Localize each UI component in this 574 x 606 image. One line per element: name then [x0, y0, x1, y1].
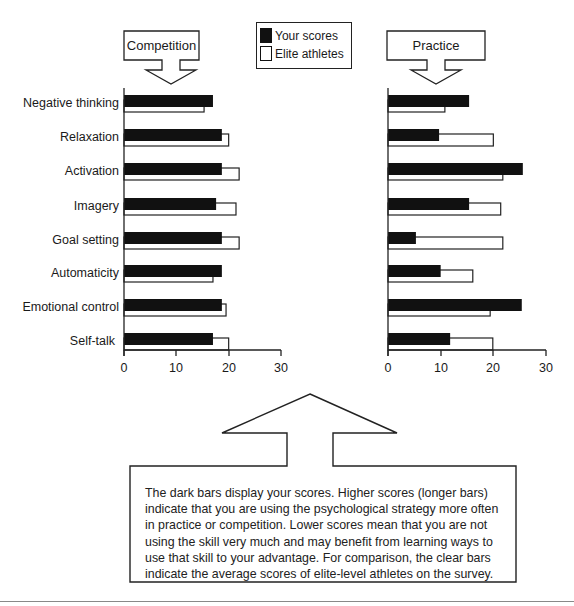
category-label: Imagery [74, 199, 119, 213]
legend-label: Elite athletes [275, 47, 344, 61]
bottom-divider [0, 601, 574, 602]
your-score-bar [124, 299, 222, 311]
category-label: Goal setting [52, 233, 119, 247]
your-score-bar [124, 198, 216, 210]
your-score-bar [124, 163, 222, 175]
tick-label: 20 [486, 361, 500, 375]
category-label: Negative thinking [23, 96, 119, 110]
your-score-bar [388, 95, 469, 107]
category-label: Self-talk [70, 334, 115, 348]
your-score-bar [388, 333, 450, 345]
tick-label: 20 [222, 361, 236, 375]
tick-label: 30 [274, 361, 288, 375]
your-score-bar [388, 163, 523, 175]
category-label: Emotional control [22, 300, 119, 314]
tick-label: 10 [434, 361, 448, 375]
your-score-bar [388, 198, 469, 210]
your-score-bar [124, 232, 222, 244]
practice-bars [388, 95, 523, 350]
clear-swatch-icon [260, 46, 272, 61]
category-label: Automaticity [51, 266, 119, 280]
your-score-bar [388, 232, 416, 244]
explanation-text: The dark bars display your scores. Highe… [145, 485, 510, 582]
tick-label: 0 [121, 361, 128, 375]
your-score-bar [388, 299, 522, 311]
legend-item-your-scores: Your scores [260, 28, 338, 43]
category-labels: Negative thinking Relaxation Activation … [0, 0, 119, 360]
legend: Your scores Elite athletes [256, 22, 352, 69]
legend-label: Your scores [275, 29, 338, 43]
competition-label: Competition [124, 38, 199, 53]
tick-label: 10 [169, 361, 183, 375]
practice-label: Practice [387, 38, 485, 53]
category-label: Activation [65, 164, 119, 178]
your-score-bar [388, 129, 439, 141]
your-score-bar [124, 95, 213, 107]
category-label: Relaxation [60, 130, 119, 144]
your-score-bar [124, 333, 213, 345]
tick-label: 30 [539, 361, 553, 375]
dark-swatch-icon [260, 28, 272, 43]
your-score-bar [388, 265, 441, 277]
your-score-bar [124, 129, 222, 141]
competition-bars [124, 95, 239, 350]
your-score-bar [124, 265, 222, 277]
tick-label: 0 [385, 361, 392, 375]
legend-item-elite-athletes: Elite athletes [260, 46, 344, 61]
